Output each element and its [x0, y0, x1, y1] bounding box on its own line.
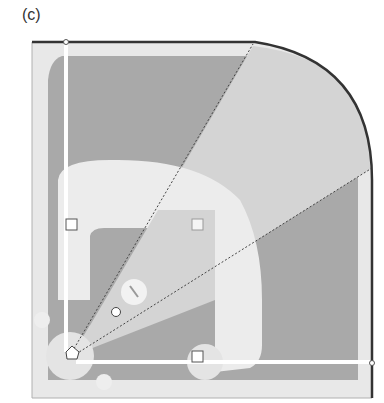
- on-deck-circle-bottom: [96, 374, 112, 390]
- third-base: [66, 219, 77, 230]
- second-base: [192, 219, 203, 230]
- first-base: [192, 351, 203, 362]
- foul-pole-right: [370, 361, 375, 366]
- on-deck-circle-left: [34, 312, 50, 328]
- foul-pole-left: [64, 40, 69, 45]
- baseball: [112, 308, 121, 317]
- baseball-field-diagram: [0, 0, 384, 403]
